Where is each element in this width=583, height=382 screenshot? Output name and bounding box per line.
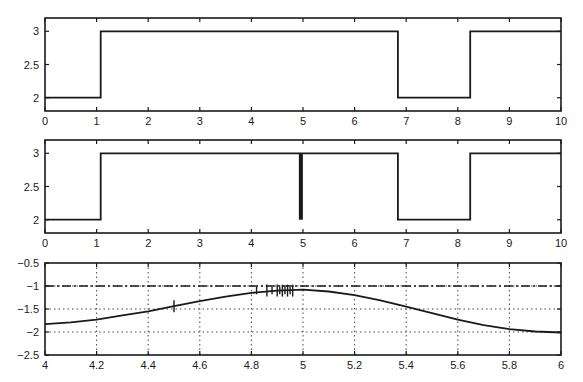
y-axis: 22.53 bbox=[24, 147, 561, 225]
x-tick-label: 7 bbox=[403, 237, 409, 249]
x-tick-label: 4 bbox=[248, 115, 254, 127]
x-tick-label: 8 bbox=[455, 115, 461, 127]
y-tick-label: 2 bbox=[33, 92, 39, 104]
x-tick-label: 6 bbox=[558, 359, 564, 371]
x-tick-label: 5.2 bbox=[347, 359, 362, 371]
grid-lines bbox=[45, 263, 561, 355]
x-tick-label: 6 bbox=[352, 237, 358, 249]
x-tick-label: 5 bbox=[300, 359, 306, 371]
noise-spikes bbox=[174, 285, 293, 313]
x-tick-label: 3 bbox=[197, 115, 203, 127]
y-axis: 22.53 bbox=[24, 25, 561, 103]
x-tick-label: 0 bbox=[42, 115, 48, 127]
x-tick-label: 4.2 bbox=[89, 359, 104, 371]
chattering-band bbox=[299, 153, 303, 219]
signal-line bbox=[45, 153, 561, 219]
y-tick-label: 3 bbox=[33, 25, 39, 37]
signal-line bbox=[45, 31, 561, 97]
y-tick-label: 3 bbox=[33, 147, 39, 159]
y-tick-label: 2.5 bbox=[24, 59, 39, 71]
x-tick-label: 8 bbox=[455, 237, 461, 249]
x-tick-label: 10 bbox=[555, 237, 567, 249]
x-tick-label: 5.8 bbox=[502, 359, 517, 371]
x-tick-label: 5 bbox=[300, 237, 306, 249]
x-tick-label: 2 bbox=[145, 237, 151, 249]
figure: 01234567891022.5301234567891022.5344.24.… bbox=[0, 0, 583, 382]
x-tick-label: 9 bbox=[506, 237, 512, 249]
y-tick-label: −0.5 bbox=[17, 257, 39, 269]
x-tick-label: 1 bbox=[94, 237, 100, 249]
y-tick-label: 2 bbox=[33, 214, 39, 226]
x-tick-label: 4.8 bbox=[244, 359, 259, 371]
x-tick-label: 1 bbox=[94, 115, 100, 127]
x-tick-label: 4 bbox=[42, 359, 48, 371]
x-tick-label: 4 bbox=[248, 237, 254, 249]
x-tick-label: 4.4 bbox=[141, 359, 156, 371]
y-tick-label: −2 bbox=[26, 326, 39, 338]
x-tick-label: 3 bbox=[197, 237, 203, 249]
y-tick-label: −1 bbox=[26, 280, 39, 292]
x-tick-label: 6 bbox=[352, 115, 358, 127]
y-tick-label: 2.5 bbox=[24, 181, 39, 193]
x-tick-label: 9 bbox=[506, 115, 512, 127]
top-plot: 01234567891022.53 bbox=[24, 18, 567, 127]
x-tick-label: 7 bbox=[403, 115, 409, 127]
x-tick-label: 5 bbox=[300, 115, 306, 127]
x-tick-label: 2 bbox=[145, 115, 151, 127]
y-tick-label: −2.5 bbox=[17, 349, 39, 361]
y-tick-label: −1.5 bbox=[17, 303, 39, 315]
bottom-plot: 44.24.44.64.855.25.45.65.86−2.5−2−1.5−1−… bbox=[17, 257, 564, 371]
x-tick-label: 0 bbox=[42, 237, 48, 249]
x-tick-label: 10 bbox=[555, 115, 567, 127]
x-tick-label: 5.6 bbox=[450, 359, 465, 371]
x-tick-label: 4.6 bbox=[192, 359, 207, 371]
x-tick-label: 5.4 bbox=[399, 359, 414, 371]
middle-plot: 01234567891022.53 bbox=[24, 140, 567, 249]
